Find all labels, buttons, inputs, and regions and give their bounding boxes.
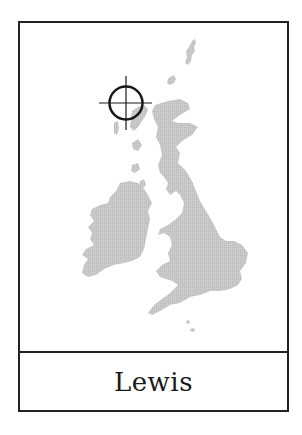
british-isles-map (20, 23, 287, 351)
location-marker (99, 76, 152, 130)
shetland-islands (185, 39, 196, 65)
place-name-label: Lewis (114, 367, 193, 397)
orkney-islands (167, 75, 176, 85)
uist-islands (114, 121, 119, 135)
channel-islands (186, 320, 195, 332)
ireland (82, 181, 152, 277)
location-card: Lewis (18, 21, 289, 412)
great-britain (148, 99, 248, 315)
skye (132, 139, 142, 151)
label-area: Lewis (20, 353, 287, 410)
map-area (20, 23, 287, 351)
